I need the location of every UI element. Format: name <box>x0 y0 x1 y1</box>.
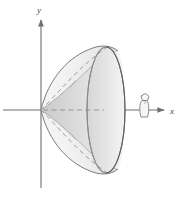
viewer-icon-head <box>141 94 149 101</box>
y-axis-label: y <box>36 5 41 15</box>
viewer-icon <box>140 94 149 118</box>
figure-canvas: x y <box>0 0 185 197</box>
viewer-icon-body <box>140 101 149 118</box>
paraboloid-diagram: x y <box>0 0 185 197</box>
paraboloid-surface <box>41 46 125 174</box>
x-axis-label: x <box>169 106 174 116</box>
